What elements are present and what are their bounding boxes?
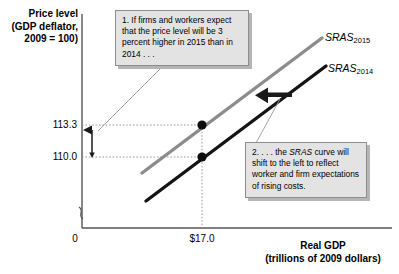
y-axis-title-line-3: 2009 = 100) bbox=[0, 33, 78, 46]
callout-2-leader-line bbox=[256, 99, 280, 143]
callout-1-number: 1. bbox=[122, 15, 129, 25]
origin-label: 0 bbox=[69, 233, 81, 244]
leftward-shift-arrow bbox=[255, 87, 292, 103]
curve-label-sras-2014: SRAS2014 bbox=[328, 62, 373, 74]
curve-label-sras-2015-name: SRAS bbox=[325, 31, 354, 43]
equilibrium-point-2014 bbox=[197, 152, 206, 161]
x-axis-title-line-1: Real GDP bbox=[249, 240, 397, 253]
callout-box-2: 2. . . . the SRAS curve will shift to th… bbox=[245, 142, 367, 198]
callout-2-prefix: 2. . . . the bbox=[252, 147, 287, 157]
equilibrium-point-2015 bbox=[197, 120, 206, 129]
callout-1-leader-line bbox=[98, 69, 160, 131]
callout-2-italic-term: SRAS bbox=[289, 147, 312, 157]
x-tick-label-17-0: $17.0 bbox=[176, 233, 228, 244]
sras-shift-diagram: Price level (GDP deflator, 2009 = 100) R… bbox=[0, 0, 399, 274]
callout-1-text: If firms and workers expect that the pri… bbox=[122, 15, 233, 59]
x-axis-title-line-2: (trillions of 2009 dollars) bbox=[249, 253, 397, 266]
curve-label-sras-2014-name: SRAS bbox=[328, 62, 357, 74]
y-axis-title-line-1: Price level bbox=[0, 8, 78, 21]
curve-label-sras-2014-year: 2014 bbox=[357, 67, 374, 76]
x-axis-title: Real GDP (trillions of 2009 dollars) bbox=[249, 240, 397, 265]
y-axis-title: Price level (GDP deflator, 2009 = 100) bbox=[0, 8, 78, 46]
callout-box-1: 1. If firms and workers expect that the … bbox=[115, 10, 249, 66]
y-axis-title-line-2: (GDP deflator, bbox=[0, 21, 78, 34]
y-tick-label-113-3: 113.3 bbox=[44, 119, 77, 130]
curve-label-sras-2015-year: 2015 bbox=[354, 36, 371, 45]
curve-label-sras-2015: SRAS2015 bbox=[325, 31, 370, 43]
y-tick-label-110-0: 110.0 bbox=[44, 151, 77, 162]
